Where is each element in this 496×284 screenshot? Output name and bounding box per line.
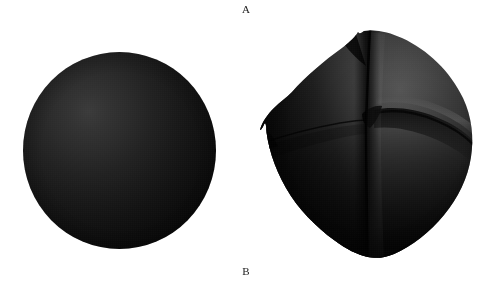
smooth-sphere <box>23 52 216 249</box>
panel-a-stage <box>0 0 248 284</box>
smooth-sphere-grain <box>23 52 216 249</box>
figure-canvas: A <box>0 0 496 284</box>
rim-vignette <box>258 26 474 260</box>
panel-label-b: B <box>236 266 256 277</box>
creased-sphere <box>258 26 474 260</box>
creased-sphere-svg <box>258 26 474 260</box>
